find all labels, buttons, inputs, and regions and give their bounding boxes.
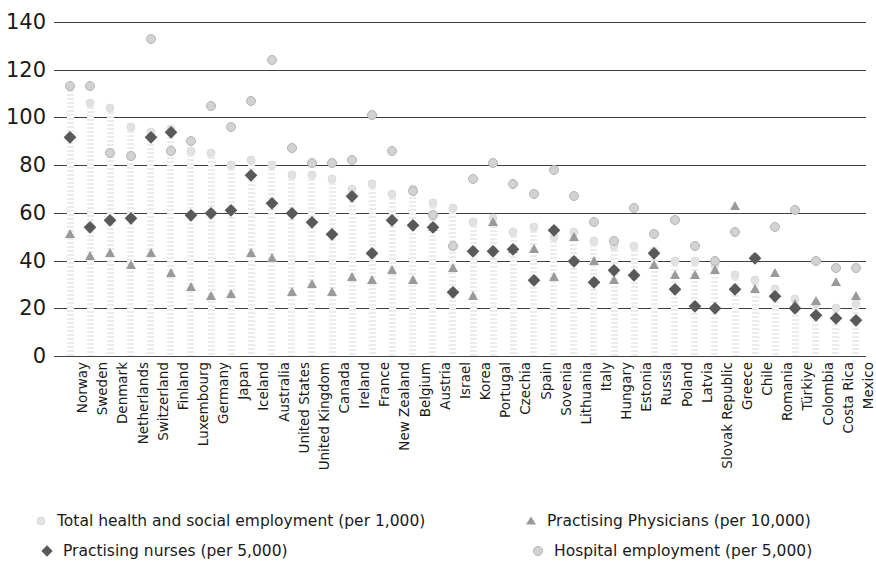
total-health-stem bbox=[449, 208, 456, 356]
x-tick-label: Lithuania bbox=[579, 362, 593, 425]
gridline bbox=[60, 70, 866, 71]
x-tick-label: Belgium bbox=[418, 362, 432, 417]
point-total-health bbox=[368, 180, 377, 189]
point-physicians bbox=[710, 265, 720, 274]
y-tick-mark bbox=[54, 22, 60, 23]
point-total-health bbox=[86, 99, 95, 108]
point-hospital bbox=[367, 110, 377, 120]
x-tick-label: Costa Rica bbox=[841, 362, 855, 433]
point-physicians bbox=[488, 217, 498, 226]
point-total-health bbox=[287, 170, 296, 179]
point-physicians bbox=[529, 244, 539, 253]
point-total-health bbox=[731, 270, 740, 279]
total-health-stem bbox=[187, 151, 194, 356]
point-hospital bbox=[226, 122, 236, 132]
point-hospital bbox=[690, 241, 700, 251]
point-physicians bbox=[730, 201, 740, 210]
x-tick-label: Finland bbox=[176, 362, 190, 410]
point-total-health bbox=[307, 170, 316, 179]
y-tick-label: 120 bbox=[6, 59, 46, 80]
total-health-stem bbox=[288, 175, 295, 356]
point-total-health bbox=[670, 256, 679, 265]
point-physicians bbox=[267, 253, 277, 262]
x-tick-label: Slovak Republic bbox=[720, 362, 734, 469]
point-total-health bbox=[751, 275, 760, 284]
point-physicians bbox=[367, 275, 377, 284]
gridline bbox=[60, 261, 866, 262]
total-health-stem bbox=[369, 184, 376, 356]
gridline bbox=[60, 22, 866, 23]
x-tick-label: Austria bbox=[438, 362, 452, 410]
point-total-health bbox=[589, 237, 598, 246]
x-tick-label: Poland bbox=[680, 362, 694, 407]
legend-item-physicians: Practising Physicians (per 10,000) bbox=[524, 512, 811, 530]
y-tick-label: 80 bbox=[19, 155, 46, 176]
point-total-health bbox=[207, 149, 216, 158]
point-hospital bbox=[508, 179, 518, 189]
gridline bbox=[60, 356, 866, 357]
total-health-stem bbox=[248, 160, 255, 356]
x-tick-label: Switzerland bbox=[156, 362, 170, 441]
point-hospital bbox=[186, 136, 196, 146]
point-hospital bbox=[670, 215, 680, 225]
y-tick-mark bbox=[54, 261, 60, 262]
point-hospital bbox=[609, 236, 619, 246]
point-physicians bbox=[126, 260, 136, 269]
circle-icon bbox=[531, 544, 545, 558]
point-physicians bbox=[307, 279, 317, 288]
x-tick-label: Sweden bbox=[95, 362, 109, 415]
x-tick-label: Türkiye bbox=[800, 362, 814, 410]
gridline bbox=[60, 308, 866, 309]
point-physicians bbox=[105, 248, 115, 257]
point-total-health bbox=[388, 189, 397, 198]
x-tick-label: Korea bbox=[478, 362, 492, 400]
legend-label: Practising nurses (per 5,000) bbox=[63, 542, 288, 560]
point-physicians bbox=[690, 270, 700, 279]
total-health-stem bbox=[611, 246, 618, 356]
point-hospital bbox=[831, 263, 841, 273]
x-tick-label: Netherlands bbox=[136, 362, 150, 444]
point-physicians bbox=[226, 289, 236, 298]
point-physicians bbox=[387, 265, 397, 274]
point-physicians bbox=[65, 229, 75, 238]
x-tick-label: Czechia bbox=[518, 362, 532, 415]
total-health-stem bbox=[409, 189, 416, 356]
point-hospital bbox=[105, 148, 115, 158]
x-tick-label: Mexico bbox=[861, 362, 875, 409]
point-total-health bbox=[227, 161, 236, 170]
y-tick-mark bbox=[54, 308, 60, 309]
legend-label: Total health and social employment (per … bbox=[57, 512, 425, 530]
total-health-stem bbox=[228, 165, 235, 356]
point-physicians bbox=[85, 251, 95, 260]
point-hospital bbox=[307, 158, 317, 168]
point-hospital bbox=[347, 155, 357, 165]
y-tick-mark bbox=[54, 213, 60, 214]
point-hospital bbox=[387, 146, 397, 156]
x-tick-label: Sovenia bbox=[559, 362, 573, 416]
gridline bbox=[60, 165, 866, 166]
y-tick-mark bbox=[54, 117, 60, 118]
x-tick-label: United Kingdom bbox=[317, 362, 331, 470]
x-tick-label: Portugal bbox=[498, 362, 512, 418]
y-tick-mark bbox=[54, 165, 60, 166]
point-hospital bbox=[549, 165, 559, 175]
point-total-health bbox=[630, 242, 639, 251]
point-physicians bbox=[186, 282, 196, 291]
point-total-health bbox=[428, 199, 437, 208]
point-physicians bbox=[246, 248, 256, 257]
gridline bbox=[60, 117, 866, 118]
point-total-health bbox=[126, 122, 135, 131]
point-hospital bbox=[811, 256, 821, 266]
x-tick-label: Israel bbox=[458, 362, 472, 399]
total-health-stem bbox=[107, 108, 114, 356]
x-tick-label: Denmark bbox=[115, 362, 129, 424]
point-hospital bbox=[649, 229, 659, 239]
plot-area bbox=[60, 0, 866, 370]
legend-item-total-health: Total health and social employment (per … bbox=[34, 512, 425, 530]
total-health-stem bbox=[852, 304, 859, 356]
point-hospital bbox=[770, 222, 780, 232]
x-tick-label: Japan bbox=[236, 362, 250, 400]
x-tick-label: Colombia bbox=[821, 362, 835, 425]
point-physicians bbox=[549, 272, 559, 281]
